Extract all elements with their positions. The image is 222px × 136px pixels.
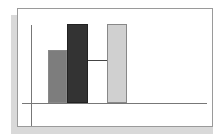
connector-line xyxy=(88,60,107,61)
bar-b xyxy=(67,24,88,103)
x-axis-baseline xyxy=(22,103,207,104)
bar-a xyxy=(48,50,67,103)
bar-c xyxy=(107,24,127,103)
y-axis-line xyxy=(31,25,32,126)
